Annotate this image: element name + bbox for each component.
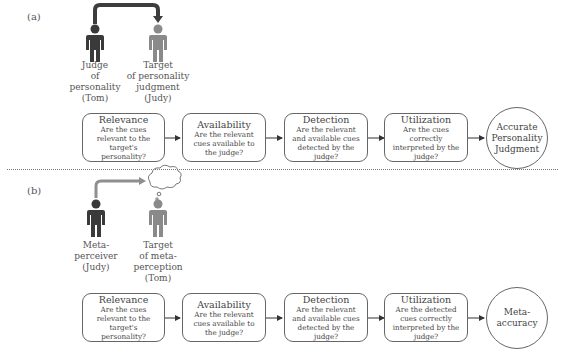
- stage-description: Are the detected cues correctly interpre…: [385, 305, 467, 341]
- stage-description: Are the cues relevant to the target's pe…: [83, 125, 164, 161]
- stage-description: Are the relevant and available cues dete…: [285, 125, 367, 161]
- stage-box-relevance-a: Relevance Are the cues relevant to the t…: [82, 113, 165, 162]
- outcome-circle-b: Meta-accuracy: [486, 287, 548, 349]
- stage-description: Are the relevant cues available to the j…: [183, 130, 265, 157]
- stage-title: Availability: [197, 119, 251, 130]
- stage-box-detection-b: Detection Are the relevant and available…: [284, 293, 368, 342]
- label-line: of: [65, 71, 125, 82]
- person-icon-target-b: [149, 200, 167, 238]
- label-line: Judge: [65, 60, 125, 71]
- stage-description: Are the relevant and available cues dete…: [285, 305, 367, 341]
- stage-title: Availability: [197, 299, 251, 310]
- outcome-circle-a: Accurate Personality Judgment: [486, 107, 548, 169]
- person-icon-judge-a: [86, 25, 104, 63]
- label-line: personality: [65, 82, 125, 93]
- stage-box-relevance-b: Relevance Are the cues relevant to the t…: [82, 293, 165, 342]
- stage-title: Detection: [303, 114, 350, 125]
- person-icon-target-a: [149, 25, 167, 63]
- stage-box-utilization-a: Utilization Are the cues correctly inter…: [384, 113, 468, 162]
- stage-title: Relevance: [99, 294, 149, 305]
- judge-to-target-arrow-a: [95, 5, 163, 24]
- target-label-b: Target of meta- perception (Tom): [123, 240, 193, 284]
- label-line: Target: [123, 60, 193, 71]
- panel-b-label: (b): [27, 185, 41, 196]
- label-line: perception: [123, 262, 193, 273]
- stage-description: Are the cues correctly interpreted by th…: [385, 125, 467, 161]
- stage-box-availability-a: Availability Are the relevant cues avail…: [182, 113, 266, 162]
- stage-box-detection-a: Detection Are the relevant and available…: [284, 113, 368, 162]
- label-line: (Tom): [123, 273, 193, 284]
- label-line: judgment: [123, 82, 193, 93]
- perceiver-to-thought-arrow-b: [96, 177, 146, 198]
- stage-title: Utilization: [401, 114, 451, 125]
- panel-divider: [7, 169, 558, 170]
- label-line: of meta-: [123, 251, 193, 262]
- stage-title: Relevance: [99, 114, 149, 125]
- person-icon-metaperceiver-b: [87, 200, 105, 238]
- label-line: (Judy): [123, 93, 193, 104]
- thought-cloud-icon: [148, 165, 181, 200]
- label-line: of personality: [123, 71, 193, 82]
- stage-description: Are the relevant cues available to the j…: [183, 310, 265, 337]
- label-line: (Judy): [66, 262, 126, 273]
- target-label-a: Target of personality judgment (Judy): [123, 60, 193, 104]
- label-line: Meta-: [66, 240, 126, 251]
- label-line: (Tom): [65, 93, 125, 104]
- stage-title: Detection: [303, 294, 350, 305]
- panel-a-label: (a): [27, 11, 41, 22]
- stage-title: Utilization: [401, 294, 451, 305]
- metaperceiver-label-b: Meta- perceiver (Judy): [66, 240, 126, 273]
- judge-label-a: Judge of personality (Tom): [65, 60, 125, 104]
- stage-box-utilization-b: Utilization Are the detected cues correc…: [384, 293, 468, 342]
- stage-box-availability-b: Availability Are the relevant cues avail…: [182, 293, 266, 342]
- label-line: Target: [123, 240, 193, 251]
- label-line: perceiver: [66, 251, 126, 262]
- stage-description: Are the cues relevant to the target's pe…: [83, 305, 164, 341]
